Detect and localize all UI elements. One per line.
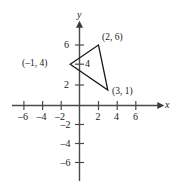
vertex-label-2-6: (2, 6): [102, 33, 123, 43]
y-tick-label-pos6: 6: [64, 40, 69, 50]
x-tick-label-neg4: –4: [37, 112, 47, 122]
y-axis-label: y: [77, 10, 81, 20]
vertex-label-neg1-4: (–1, 4): [22, 59, 47, 69]
y-tick-label-neg4: –4: [61, 139, 71, 149]
y-tick-label-pos4: 4: [85, 59, 90, 69]
x-tick-label-neg6: –6: [18, 112, 28, 122]
y-tick-label-neg2: –2: [61, 120, 71, 130]
coordinate-plane-figure: x y –6 –4 –2 2 4 6 6 4 2 –2 –4 –6 (2, 6)…: [0, 0, 181, 191]
x-axis-label: x: [165, 100, 169, 110]
x-tick-label-pos2: 2: [96, 112, 101, 122]
y-tick-label-neg6: –6: [61, 158, 71, 168]
x-tick-label-pos6: 6: [133, 112, 138, 122]
x-tick-label-pos4: 4: [114, 112, 119, 122]
plot-canvas: [0, 0, 181, 191]
vertex-label-3-1: (3, 1): [112, 87, 133, 97]
y-tick-label-pos2: 2: [64, 80, 69, 90]
